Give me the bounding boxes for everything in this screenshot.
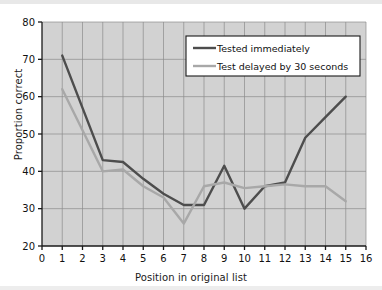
line-chart: 20304050607080012345678910111213141516Te… (0, 0, 382, 290)
x-axis-title: Position in original list (0, 272, 382, 283)
x-tick-label: 8 (201, 253, 207, 264)
chart-container: 20304050607080012345678910111213141516Te… (0, 0, 382, 290)
y-tick-label: 70 (22, 54, 35, 65)
x-tick-label: 10 (238, 253, 251, 264)
y-tick-label: 80 (22, 17, 35, 28)
x-tick-label: 3 (100, 253, 106, 264)
x-tick-label: 12 (279, 253, 292, 264)
y-tick-label: 20 (22, 241, 35, 252)
x-tick-label: 16 (360, 253, 373, 264)
x-tick-label: 2 (79, 253, 85, 264)
x-tick-label: 4 (120, 253, 126, 264)
x-tick-label: 7 (181, 253, 187, 264)
x-tick-label: 9 (221, 253, 227, 264)
x-tick-label: 11 (258, 253, 271, 264)
y-tick-label: 50 (22, 129, 35, 140)
x-tick-label: 14 (319, 253, 332, 264)
x-tick-label: 6 (160, 253, 166, 264)
x-tick-label: 1 (59, 253, 65, 264)
x-tick-label: 0 (39, 253, 45, 264)
x-tick-label: 15 (339, 253, 352, 264)
y-tick-label: 30 (22, 203, 35, 214)
legend-label: Tested immediately (216, 43, 310, 54)
y-tick-label: 40 (22, 166, 35, 177)
x-tick-label: 5 (140, 253, 146, 264)
y-tick-label: 60 (22, 91, 35, 102)
x-tick-label: 13 (299, 253, 312, 264)
y-axis-title: Proportion correct (13, 55, 24, 175)
legend-label: Test delayed by 30 seconds (216, 61, 348, 72)
